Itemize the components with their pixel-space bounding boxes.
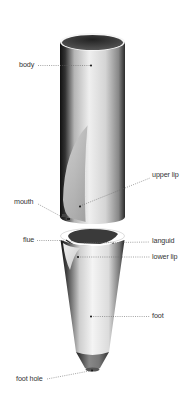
label-body: body (19, 61, 34, 69)
label-foot-hole: foot hole (16, 375, 43, 383)
leader-mouth (38, 204, 62, 217)
label-mouth: mouth (14, 198, 33, 206)
label-lower-lip: lower lip (152, 253, 177, 261)
label-foot: foot (152, 312, 164, 320)
pipe-foot (61, 240, 125, 372)
leader-foot-hole (47, 371, 92, 380)
label-flue: flue (23, 236, 34, 244)
label-languid: languid (152, 237, 174, 245)
label-upper-lip: upper lip (152, 171, 179, 179)
